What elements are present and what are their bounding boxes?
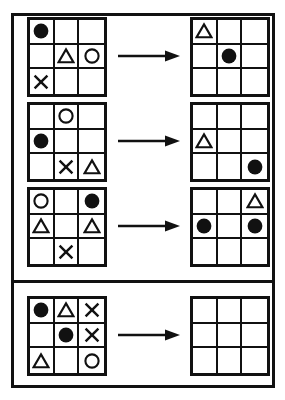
grid-cell-empty bbox=[193, 348, 218, 373]
grid-cell-empty bbox=[193, 299, 218, 324]
example-2-input-grid bbox=[27, 102, 107, 182]
filled-circle-icon bbox=[57, 326, 75, 344]
filled-circle-icon bbox=[246, 217, 264, 235]
grid-cell-empty bbox=[79, 69, 104, 94]
grid-cell-triangle bbox=[79, 154, 104, 179]
grid-cell-empty bbox=[218, 105, 243, 130]
grid-cell-empty bbox=[30, 45, 55, 70]
grid-cell-filled-circle bbox=[242, 215, 267, 240]
grid-cell-empty bbox=[30, 239, 55, 264]
grid-cell-empty bbox=[218, 154, 243, 179]
grid-cell-circle bbox=[79, 45, 104, 70]
grid-cell-empty bbox=[55, 215, 80, 240]
filled-circle-icon bbox=[32, 22, 50, 40]
filled-circle-icon bbox=[195, 217, 213, 235]
grid-cell-empty bbox=[242, 348, 267, 373]
grid-cell-empty bbox=[193, 105, 218, 130]
grid-cell-empty bbox=[79, 130, 104, 155]
grid-cell-empty bbox=[218, 239, 243, 264]
right-arrow-icon bbox=[117, 219, 181, 233]
grid-cell-empty bbox=[193, 324, 218, 349]
grid-cell-triangle bbox=[79, 215, 104, 240]
cross-icon bbox=[83, 301, 101, 319]
grid-cell-circle bbox=[55, 105, 80, 130]
triangle-icon bbox=[57, 301, 75, 319]
grid-cell-empty bbox=[55, 69, 80, 94]
triangle-icon bbox=[83, 217, 101, 235]
grid-cell-filled-circle bbox=[218, 45, 243, 70]
filled-circle-icon bbox=[246, 158, 264, 176]
example-1-output-grid bbox=[190, 17, 270, 97]
right-arrow-icon bbox=[117, 328, 181, 342]
example-3-output-grid bbox=[190, 187, 270, 267]
grid-cell-triangle bbox=[193, 130, 218, 155]
grid-cell-empty bbox=[193, 239, 218, 264]
grid-cell-empty bbox=[242, 239, 267, 264]
grid-cell-triangle bbox=[30, 215, 55, 240]
examples-panel bbox=[14, 16, 272, 283]
grid-cell-empty bbox=[218, 215, 243, 240]
cross-icon bbox=[57, 158, 75, 176]
question-input-grid bbox=[27, 296, 107, 376]
grid-cell-empty bbox=[79, 105, 104, 130]
grid-cell-filled-circle bbox=[79, 190, 104, 215]
right-arrow-icon bbox=[117, 134, 181, 148]
grid-cell-empty bbox=[218, 20, 243, 45]
example-row-3 bbox=[14, 186, 272, 271]
grid-cell-filled-circle bbox=[30, 299, 55, 324]
triangle-icon bbox=[32, 352, 50, 370]
grid-cell-empty bbox=[242, 45, 267, 70]
triangle-icon bbox=[32, 217, 50, 235]
grid-cell-empty bbox=[242, 299, 267, 324]
triangle-icon bbox=[57, 47, 75, 65]
filled-circle-icon bbox=[32, 301, 50, 319]
grid-cell-cross bbox=[79, 299, 104, 324]
grid-cell-empty bbox=[218, 190, 243, 215]
grid-cell-empty bbox=[79, 239, 104, 264]
grid-cell-empty bbox=[193, 154, 218, 179]
grid-cell-empty bbox=[79, 20, 104, 45]
grid-cell-empty bbox=[30, 324, 55, 349]
grid-cell-empty bbox=[218, 299, 243, 324]
grid-cell-empty bbox=[55, 190, 80, 215]
example-1-input-grid bbox=[27, 17, 107, 97]
grid-cell-empty bbox=[55, 20, 80, 45]
grid-cell-empty bbox=[30, 105, 55, 130]
grid-cell-triangle bbox=[55, 299, 80, 324]
cross-icon bbox=[83, 326, 101, 344]
grid-cell-empty bbox=[193, 190, 218, 215]
grid-cell-empty bbox=[242, 20, 267, 45]
example-2-output-grid bbox=[190, 102, 270, 182]
triangle-icon bbox=[195, 132, 213, 150]
grid-cell-cross bbox=[30, 69, 55, 94]
example-row-2 bbox=[14, 101, 272, 186]
grid-cell-empty bbox=[242, 324, 267, 349]
grid-cell-cross bbox=[79, 324, 104, 349]
filled-circle-icon bbox=[83, 192, 101, 210]
grid-cell-circle bbox=[30, 190, 55, 215]
circle-icon bbox=[57, 107, 75, 125]
circle-icon bbox=[83, 47, 101, 65]
grid-cell-empty bbox=[242, 130, 267, 155]
circle-icon bbox=[83, 352, 101, 370]
right-arrow-icon bbox=[117, 49, 181, 63]
grid-cell-empty bbox=[218, 348, 243, 373]
grid-cell-filled-circle bbox=[193, 215, 218, 240]
grid-cell-empty bbox=[55, 348, 80, 373]
grid-cell-empty bbox=[193, 69, 218, 94]
grid-cell-empty bbox=[193, 45, 218, 70]
example-row-1 bbox=[14, 16, 272, 101]
example-3-input-grid bbox=[27, 187, 107, 267]
grid-cell-empty bbox=[55, 130, 80, 155]
cross-icon bbox=[57, 243, 75, 261]
grid-cell-filled-circle bbox=[55, 324, 80, 349]
answer-grid[interactable] bbox=[190, 296, 270, 376]
grid-cell-filled-circle bbox=[30, 130, 55, 155]
grid-cell-triangle bbox=[55, 45, 80, 70]
grid-cell-triangle bbox=[30, 348, 55, 373]
cross-icon bbox=[32, 73, 50, 91]
grid-cell-triangle bbox=[242, 190, 267, 215]
grid-cell-empty bbox=[242, 105, 267, 130]
filled-circle-icon bbox=[32, 132, 50, 150]
triangle-icon bbox=[83, 158, 101, 176]
